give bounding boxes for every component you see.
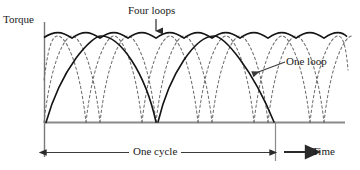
dashed-loop-set-a xyxy=(44,36,352,123)
dashed-loop-set-b xyxy=(44,36,348,123)
four-loops-annotation: Four loops xyxy=(128,5,175,16)
torque-waveform-figure: Torque Four loops One loop One cycle Tim… xyxy=(0,0,360,170)
y-axis-label: Torque xyxy=(3,14,34,25)
waveform-plot xyxy=(0,0,360,170)
envelope-curve xyxy=(44,33,347,39)
solid-resultant-arches xyxy=(46,36,274,123)
one-loop-annotation: One loop xyxy=(286,56,327,67)
x-axis-label: Time xyxy=(312,146,335,157)
one-cycle-annotation: One cycle xyxy=(129,146,181,157)
